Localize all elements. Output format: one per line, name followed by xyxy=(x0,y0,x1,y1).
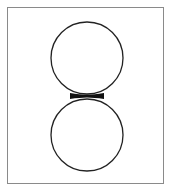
top-circle xyxy=(51,22,123,94)
diagram-canvas xyxy=(0,0,174,192)
bottom-circle xyxy=(51,99,123,171)
